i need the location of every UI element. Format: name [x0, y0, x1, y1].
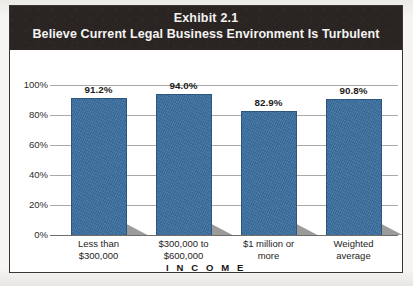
category-label-line1: Weighted	[334, 238, 374, 249]
category-label-line1: $300,000 to	[158, 238, 208, 249]
category-label-line2: $600,000	[141, 250, 226, 262]
bar-shadow	[212, 224, 233, 235]
bar-shadow	[127, 224, 148, 235]
x-axis-category-label: $300,000 to$600,000	[141, 238, 226, 261]
x-axis-category-label: Weightedaverage	[311, 238, 396, 261]
y-axis-tick-label: 60%	[14, 140, 48, 150]
bar-shadow	[297, 224, 318, 235]
y-axis-tick-label: 20%	[14, 200, 48, 210]
category-label-line2: average	[311, 250, 396, 262]
category-label-line2: $300,000	[56, 250, 141, 262]
bar[interactable]	[241, 111, 297, 235]
bar-shadow	[382, 224, 403, 235]
bar[interactable]	[71, 98, 127, 235]
exhibit-number: Exhibit 2.1	[10, 10, 402, 26]
exhibit-title-band: Exhibit 2.1 Believe Current Legal Busine…	[10, 6, 402, 50]
exhibit-title: Believe Current Legal Business Environme…	[10, 26, 402, 43]
x-axis-category-labels: Less than$300,000$300,000 to$600,000$1 m…	[56, 238, 396, 264]
bar-value-label: 91.2%	[53, 84, 145, 95]
exhibit-panel: Exhibit 2.1 Believe Current Legal Busine…	[9, 5, 403, 273]
y-axis-tick-label: 40%	[14, 170, 48, 180]
bar-value-label: 94.0%	[138, 80, 230, 91]
bar[interactable]	[156, 94, 212, 235]
y-axis-tick-label: 80%	[14, 110, 48, 120]
category-label-line1: $1 million or	[243, 238, 294, 249]
bar-value-label: 90.8%	[308, 85, 400, 96]
x-axis-category-label: $1 million ormore	[226, 238, 311, 261]
x-axis-category-label: Less than$300,000	[56, 238, 141, 261]
y-axis: 0%20%40%60%80%100%	[12, 50, 48, 272]
page-background: Exhibit 2.1 Believe Current Legal Busine…	[0, 0, 413, 286]
x-axis-title: I N C O M E	[10, 262, 402, 273]
bar[interactable]	[326, 99, 382, 235]
category-label-line2: more	[226, 250, 311, 262]
category-label-line1: Less than	[78, 238, 119, 249]
y-axis-tick-label: 0%	[14, 230, 48, 240]
y-axis-tick-label: 100%	[14, 80, 48, 90]
bar-value-label: 82.9%	[223, 97, 315, 108]
